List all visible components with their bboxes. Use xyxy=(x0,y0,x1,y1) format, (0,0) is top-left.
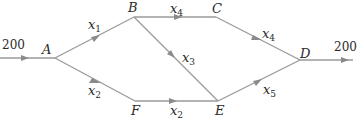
edge-A-B-label: x1 xyxy=(88,18,101,34)
node-E-label: E xyxy=(215,104,225,117)
edge-B-E xyxy=(134,17,218,101)
edge-A-F-label: x2 xyxy=(88,84,101,100)
edge-B-E-label: x3 xyxy=(182,51,195,67)
output-flow-label: 200 xyxy=(334,41,357,53)
arrow-icon xyxy=(21,55,29,61)
node-B-label: B xyxy=(128,1,138,14)
edge-C-D-label: x4 xyxy=(262,27,275,43)
edge-E-D-label: x5 xyxy=(263,83,276,99)
input-flow-label: 200 xyxy=(2,39,25,51)
edge-F-E-label: x2 xyxy=(170,104,183,120)
arrow-icon xyxy=(91,35,100,42)
arrow-icon xyxy=(341,57,349,63)
node-F-label: F xyxy=(131,104,140,117)
arrow-icon xyxy=(253,79,262,86)
node-C-label: C xyxy=(212,2,222,15)
node-D-label: D xyxy=(300,47,310,60)
node-A-label: A xyxy=(42,43,51,56)
edge-B-C-label: x4 xyxy=(170,2,183,18)
